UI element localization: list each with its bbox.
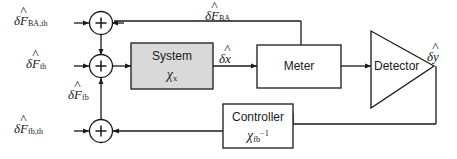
signal-label-fb: δFfb <box>68 88 89 103</box>
signal-label-x: δx <box>219 52 231 65</box>
signal-label-ba: δFBA <box>205 9 230 24</box>
controller-block-math: χfb−1 <box>223 129 293 144</box>
detector-block-label: Detector <box>374 60 430 72</box>
input-label-fb-th: δFfb,th <box>14 122 43 137</box>
input-label-th: δFth <box>26 57 46 72</box>
controller-block-label: Controller <box>223 111 293 123</box>
meter-block-label: Meter <box>257 60 341 72</box>
input-label-ba-th: δFBA,th <box>14 14 47 29</box>
system-block-label: System <box>131 50 213 62</box>
system-block-math: χx <box>131 68 213 83</box>
